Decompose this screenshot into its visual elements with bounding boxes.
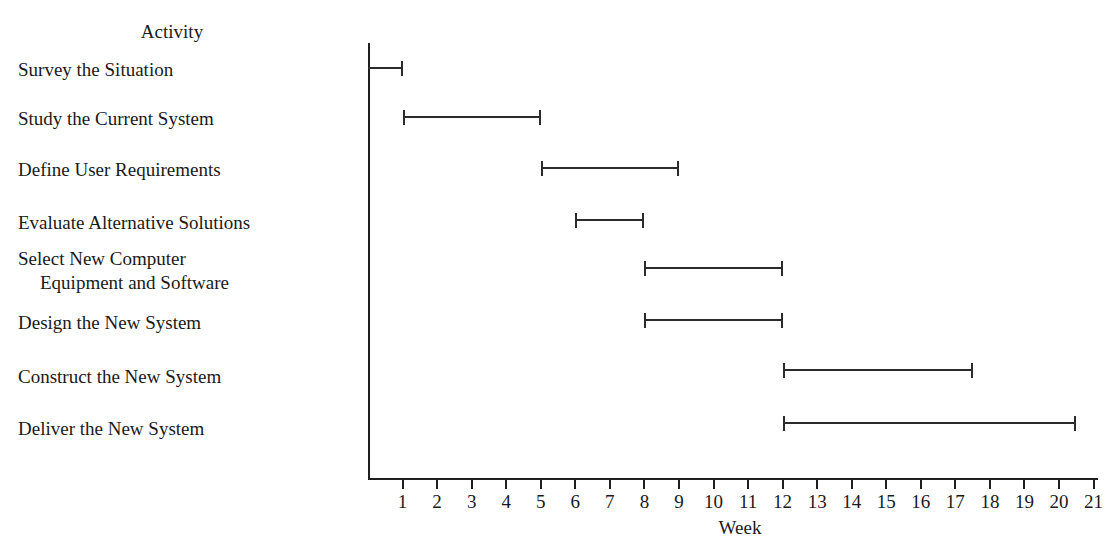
activity-label-line: Define User Requirements — [18, 158, 221, 182]
x-axis-tick — [471, 480, 473, 489]
x-axis-tick — [851, 480, 853, 489]
x-axis-tick-label: 16 — [911, 492, 930, 511]
x-axis-tick — [643, 480, 645, 489]
x-axis-tick-label: 8 — [640, 492, 650, 511]
activity-label: Select New ComputerEquipment and Softwar… — [18, 247, 229, 295]
activity-label: Study the Current System — [18, 107, 214, 131]
activity-label-line: Select New Computer — [18, 247, 229, 271]
activity-label-line: Construct the New System — [18, 365, 221, 389]
x-axis-tick-label: 17 — [946, 492, 965, 511]
activity-label-line: Evaluate Alternative Solutions — [18, 211, 250, 235]
gantt-bar — [368, 67, 403, 69]
x-axis-tick-label: 11 — [739, 492, 757, 511]
activity-label: Construct the New System — [18, 365, 221, 389]
x-axis-tick — [954, 480, 956, 489]
x-axis-tick — [920, 480, 922, 489]
activity-label: Survey the Situation — [18, 58, 173, 82]
activity-label-line: Deliver the New System — [18, 417, 204, 441]
x-axis-tick — [747, 480, 749, 489]
x-axis-tick-label: 10 — [704, 492, 723, 511]
gantt-bar — [575, 219, 644, 221]
x-axis-tick-label: 12 — [773, 492, 792, 511]
gantt-bar — [783, 422, 1077, 424]
x-axis-tick-label: 7 — [605, 492, 615, 511]
gantt-bar — [541, 167, 679, 169]
x-axis-tick-label: 15 — [877, 492, 896, 511]
x-axis-tick-label: 21 — [1084, 492, 1103, 511]
x-axis-title: Week — [719, 518, 762, 537]
y-axis-line — [368, 43, 370, 480]
x-axis-tick — [609, 480, 611, 489]
activity-label: Design the New System — [18, 311, 201, 335]
x-axis-tick-label: 6 — [571, 492, 581, 511]
gantt-bar — [644, 319, 782, 321]
x-axis-tick-label: 18 — [980, 492, 999, 511]
x-axis-tick — [816, 480, 818, 489]
x-axis-tick — [1023, 480, 1025, 489]
x-axis-tick — [1058, 480, 1060, 489]
x-axis-tick — [713, 480, 715, 489]
x-axis-tick — [540, 480, 542, 489]
gantt-bar — [403, 116, 541, 118]
x-axis-tick — [505, 480, 507, 489]
x-axis-tick-label: 1 — [398, 492, 408, 511]
x-axis-tick-label: 14 — [842, 492, 861, 511]
x-axis-tick-label: 9 — [674, 492, 684, 511]
x-axis-tick-label: 5 — [536, 492, 546, 511]
x-axis-tick-label: 13 — [808, 492, 827, 511]
x-axis-tick-label: 19 — [1015, 492, 1034, 511]
x-axis-tick — [402, 480, 404, 489]
x-axis-tick — [1093, 480, 1095, 489]
activity-label-line: Design the New System — [18, 311, 201, 335]
x-axis-tick — [782, 480, 784, 489]
x-axis-tick-label: 3 — [467, 492, 477, 511]
activity-column-header: Activity — [141, 22, 203, 41]
activity-label-line: Survey the Situation — [18, 58, 173, 82]
x-axis-tick — [885, 480, 887, 489]
x-axis-tick — [436, 480, 438, 489]
x-axis-tick — [574, 480, 576, 489]
x-axis-tick-label: 2 — [432, 492, 442, 511]
activity-label-line: Equipment and Software — [18, 271, 229, 295]
activity-label-line: Study the Current System — [18, 107, 214, 131]
x-axis-tick-label: 4 — [501, 492, 511, 511]
gantt-bar — [644, 267, 782, 269]
gantt-chart-figure: Activity Survey the SituationStudy the C… — [0, 0, 1115, 544]
activity-label: Deliver the New System — [18, 417, 204, 441]
activity-label: Define User Requirements — [18, 158, 221, 182]
activity-label: Evaluate Alternative Solutions — [18, 211, 250, 235]
x-axis-tick-label: 20 — [1050, 492, 1069, 511]
x-axis-tick — [989, 480, 991, 489]
gantt-bar — [783, 369, 973, 371]
x-axis-tick — [678, 480, 680, 489]
